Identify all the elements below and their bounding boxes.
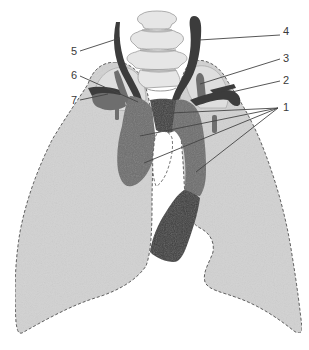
diagram-canvas <box>0 0 309 350</box>
label-5: 5 <box>71 46 77 57</box>
label-1: 1 <box>283 102 289 113</box>
anatomical-diagram: 4 3 2 1 5 6 7 <box>0 0 309 350</box>
label-2: 2 <box>283 75 289 86</box>
label-7: 7 <box>71 95 77 106</box>
label-6: 6 <box>71 70 77 81</box>
label-4: 4 <box>283 26 289 37</box>
label-3: 3 <box>283 53 289 64</box>
descending-aorta <box>150 190 200 262</box>
